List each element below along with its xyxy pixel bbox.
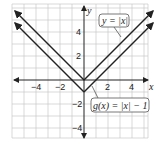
svg-text:−4: −4 [31, 82, 41, 92]
svg-text:4: 4 [76, 27, 81, 37]
svg-text:4: 4 [129, 82, 134, 92]
parent-left [15, 11, 84, 80]
svg-text:x: x [148, 81, 154, 92]
g-left [15, 23, 84, 92]
svg-text:2: 2 [76, 51, 81, 61]
svg-text:g(x) = |x| − 1: g(x) = |x| − 1 [93, 100, 148, 112]
svg-text:−4: −4 [72, 123, 82, 133]
svg-text:y: y [86, 5, 92, 16]
graph: −4 −2 2 4 x 4 2 −2 −4 y y = |x| g(x) = |… [0, 0, 159, 144]
svg-text:y = |x|: y = |x| [101, 15, 128, 26]
y-tick-labels: 4 2 −2 −4 y [72, 5, 92, 133]
svg-text:2: 2 [105, 82, 110, 92]
parent-label-callout: y = |x| [99, 14, 129, 37]
svg-text:−2: −2 [55, 82, 65, 92]
coordinate-plane: −4 −2 2 4 x 4 2 −2 −4 y y = |x| g(x) = |… [0, 0, 159, 144]
svg-text:−2: −2 [72, 99, 82, 109]
